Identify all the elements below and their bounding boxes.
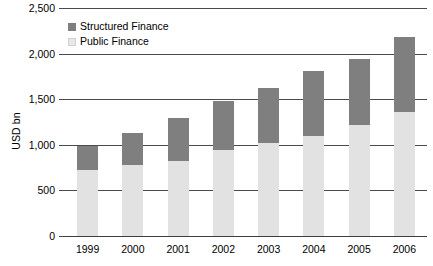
- bar-segment-public-finance[interactable]: [77, 170, 98, 236]
- bar-segment-public-finance[interactable]: [303, 136, 324, 236]
- y-axis-tick-label: 2,000: [13, 49, 55, 59]
- bar-segment-public-finance[interactable]: [258, 143, 279, 236]
- bar-chart: USD bn 05001,0001,5002,0002,500 19992000…: [0, 0, 433, 266]
- bar-segment-structured-finance[interactable]: [258, 88, 279, 143]
- y-axis-tickmark: [59, 236, 65, 237]
- bar-segment-public-finance[interactable]: [122, 165, 143, 236]
- bar-segment-structured-finance[interactable]: [394, 37, 415, 112]
- legend-item[interactable]: Structured Finance: [68, 20, 169, 33]
- x-axis-tick-label: 2003: [244, 243, 294, 255]
- y-axis-tick-label: 500: [13, 185, 55, 195]
- x-axis-tick-label: 2006: [379, 243, 429, 255]
- bar-segment-public-finance[interactable]: [213, 150, 234, 236]
- bar-group[interactable]: [303, 8, 324, 236]
- chart-legend: Structured FinancePublic Finance: [68, 20, 169, 48]
- bar-segment-public-finance[interactable]: [394, 112, 415, 236]
- bar-segment-public-finance[interactable]: [168, 161, 189, 236]
- bar-segment-structured-finance[interactable]: [213, 101, 234, 150]
- y-axis-tick-label: 0: [13, 231, 55, 241]
- y-axis-tick-label: 1,000: [13, 140, 55, 150]
- gridline: [65, 236, 427, 237]
- bar-segment-structured-finance[interactable]: [168, 118, 189, 161]
- legend-label: Structured Finance: [80, 21, 169, 32]
- x-axis-tick-label: 2000: [108, 243, 158, 255]
- x-axis-tick-label: 2001: [153, 243, 203, 255]
- y-axis-tick-labels: 05001,0001,5002,0002,500: [8, 0, 55, 266]
- bar-segment-public-finance[interactable]: [349, 125, 370, 236]
- legend-label: Public Finance: [80, 36, 149, 47]
- legend-swatch-structured-icon: [68, 23, 76, 31]
- legend-swatch-public-icon: [68, 38, 76, 46]
- y-axis-tick-label: 1,500: [13, 94, 55, 104]
- bar-group[interactable]: [258, 8, 279, 236]
- bar-group[interactable]: [168, 8, 189, 236]
- y-axis-tick-label: 2,500: [13, 3, 55, 13]
- bar-segment-structured-finance[interactable]: [303, 71, 324, 136]
- x-axis-tick-label: 2005: [334, 243, 384, 255]
- bar-segment-structured-finance[interactable]: [77, 146, 98, 171]
- bar-group[interactable]: [213, 8, 234, 236]
- bar-segment-structured-finance[interactable]: [122, 133, 143, 166]
- x-axis-tick-label: 2002: [198, 243, 248, 255]
- bar-segment-structured-finance[interactable]: [349, 59, 370, 126]
- x-axis-tick-label: 1999: [63, 243, 113, 255]
- x-axis-tick-label: 2004: [289, 243, 339, 255]
- legend-item[interactable]: Public Finance: [68, 35, 169, 48]
- bar-group[interactable]: [349, 8, 370, 236]
- bar-group[interactable]: [394, 8, 415, 236]
